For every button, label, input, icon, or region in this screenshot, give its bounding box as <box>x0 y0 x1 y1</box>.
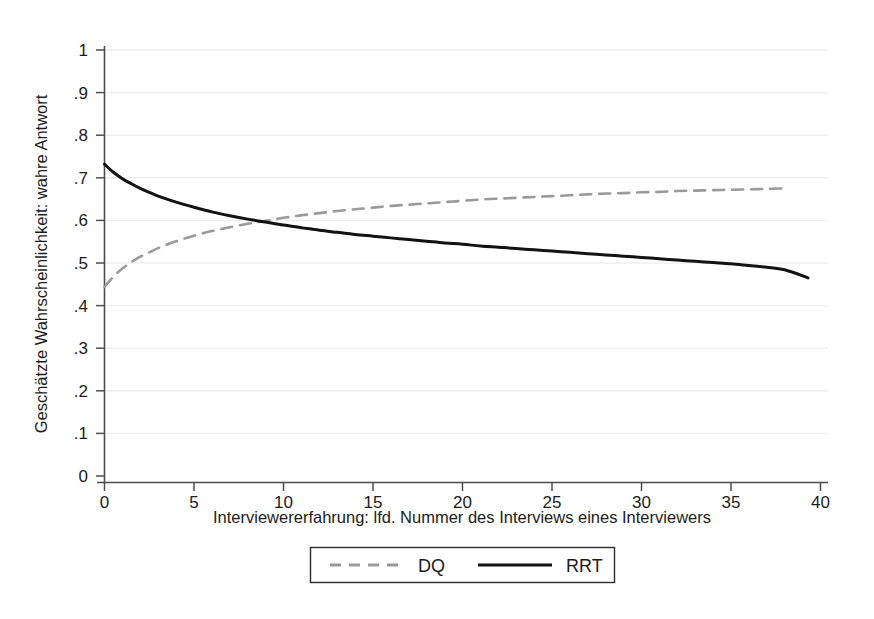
legend-label-rrt: RRT <box>566 556 603 576</box>
y-tick-label: .3 <box>74 339 88 358</box>
legend: DQ RRT <box>311 548 615 583</box>
y-tick-label: .6 <box>74 211 88 230</box>
y-tick-label: .1 <box>74 424 88 443</box>
x-tick-label: 35 <box>722 493 741 512</box>
legend-label-dq: DQ <box>418 556 445 576</box>
y-tick-label: .5 <box>74 254 88 273</box>
y-tick-label: 0 <box>79 467 88 486</box>
y-tick-label: .2 <box>74 382 88 401</box>
y-tick-label: .8 <box>74 126 88 145</box>
x-tick-label: 40 <box>811 493 830 512</box>
x-tick-label: 0 <box>100 493 109 512</box>
line-chart-canvas: 0.1.2.3.4.5.6.7.8.91 0510152025303540 Ge… <box>0 0 874 619</box>
y-tick-label: .4 <box>74 297 88 316</box>
y-tick-label: .9 <box>74 84 88 103</box>
y-axis-title: Geschätzte Wahrscheinlichkeit: wahre Ant… <box>32 94 50 433</box>
y-tick-label: .7 <box>74 169 88 188</box>
x-tick-label: 5 <box>189 493 198 512</box>
y-tick-label: 1 <box>79 41 88 60</box>
x-axis-title: Interviewererfahrung: lfd. Nummer des In… <box>213 508 711 526</box>
chart-figure: 0.1.2.3.4.5.6.7.8.91 0510152025303540 Ge… <box>0 0 874 619</box>
